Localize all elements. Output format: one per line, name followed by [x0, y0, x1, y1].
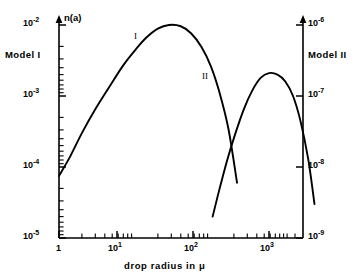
y-axis-title: n(a) [64, 13, 81, 23]
left-axis-major-ticks [59, 25, 66, 238]
right-axis-tick-label-4: 10-9 [308, 232, 324, 241]
right-axis-tick-label-2: 10-7 [308, 90, 324, 99]
plot-canvas [0, 0, 356, 280]
x-axis-title: drop radius in μ [124, 261, 205, 271]
x-axis-tick-label-3: 102 [184, 244, 198, 253]
curve-model-2 [213, 73, 315, 217]
left-axis-tick-label-2: 10-3 [23, 90, 39, 99]
right-y-axis-arrow [300, 15, 307, 23]
x-axis-tick-label-4: 103 [260, 244, 274, 253]
left-axis-tick-label-1: 10-2 [23, 19, 39, 28]
left-y-axis-arrow [56, 15, 63, 23]
curve-2-annotation: II [202, 72, 208, 81]
model-2-label: Model II [308, 50, 347, 60]
left-axis-tick-label-4: 10-5 [23, 232, 39, 241]
curve-model-1 [59, 25, 237, 183]
x-axis-tick-label-1: 1 [56, 244, 61, 253]
model-1-label: Model I [5, 50, 41, 60]
right-axis-tick-label-3: 10-8 [308, 161, 324, 170]
curve-1-annotation: I [134, 32, 137, 41]
figure-container: 10-2 10-3 10-4 10-5 n(a) Model I 10-6 10… [0, 0, 356, 280]
x-axis-tick-label-2: 101 [108, 244, 122, 253]
right-axis-tick-label-1: 10-6 [308, 19, 324, 28]
x-axis-major-ticks [59, 231, 269, 238]
left-axis-tick-label-3: 10-4 [23, 161, 39, 170]
